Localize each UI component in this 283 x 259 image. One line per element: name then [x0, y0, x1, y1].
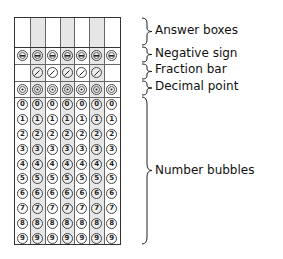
digit-bubble-0[interactable]: 0: [47, 99, 58, 110]
digit-bubble-7[interactable]: 7: [17, 203, 28, 214]
digit-bubble-4[interactable]: 4: [76, 159, 87, 170]
label-number-bubbles: Number bubbles: [155, 163, 254, 177]
digit-bubble-1[interactable]: 1: [32, 114, 43, 125]
row-divider: [15, 97, 120, 98]
brace-number-bubbles: [141, 96, 153, 245]
negative-sign-bubble[interactable]: [76, 50, 87, 61]
digit-bubble-5[interactable]: 5: [17, 173, 28, 184]
digit-bubble-3[interactable]: 3: [32, 144, 43, 155]
negative-sign-bubble[interactable]: [32, 50, 43, 61]
digit-bubble-6[interactable]: 6: [32, 188, 43, 199]
digit-bubble-4[interactable]: 4: [91, 159, 102, 170]
digit-bubble-4[interactable]: 4: [32, 159, 43, 170]
digit-bubble-2[interactable]: 2: [17, 129, 28, 140]
digit-bubble-2[interactable]: 2: [47, 129, 58, 140]
digit-bubble-7[interactable]: 7: [32, 203, 43, 214]
brace-answer-boxes: [141, 17, 153, 46]
digit-bubble-1[interactable]: 1: [62, 114, 73, 125]
digit-bubble-8[interactable]: 8: [32, 218, 43, 229]
digit-bubble-8[interactable]: 8: [91, 218, 102, 229]
digit-bubble-6[interactable]: 6: [17, 188, 28, 199]
column-divider: [30, 18, 31, 244]
label-fraction-bar: Fraction bar: [155, 62, 227, 76]
digit-bubble-8[interactable]: 8: [47, 218, 58, 229]
row-divider: [15, 64, 120, 65]
negative-sign-bubble[interactable]: [47, 50, 58, 61]
digit-bubble-4[interactable]: 4: [62, 159, 73, 170]
digit-bubble-9[interactable]: 9: [62, 233, 73, 244]
row-divider: [15, 47, 120, 48]
digit-bubble-5[interactable]: 5: [62, 173, 73, 184]
column-divider: [45, 18, 46, 244]
digit-bubble-4[interactable]: 4: [106, 159, 117, 170]
digit-bubble-0[interactable]: 0: [62, 99, 73, 110]
digit-bubble-8[interactable]: 8: [62, 218, 73, 229]
digit-bubble-3[interactable]: 3: [47, 144, 58, 155]
label-decimal-point: Decimal point: [155, 79, 238, 93]
digit-bubble-1[interactable]: 1: [47, 114, 58, 125]
digit-bubble-4[interactable]: 4: [47, 159, 58, 170]
decimal-point-bubble[interactable]: [62, 84, 73, 95]
digit-bubble-6[interactable]: 6: [62, 188, 73, 199]
digit-bubble-9[interactable]: 9: [106, 233, 117, 244]
digit-bubble-3[interactable]: 3: [106, 144, 117, 155]
digit-bubble-6[interactable]: 6: [106, 188, 117, 199]
negative-sign-bubble[interactable]: [17, 50, 28, 61]
fraction-bar-bubble[interactable]: [91, 67, 102, 78]
digit-bubble-6[interactable]: 6: [47, 188, 58, 199]
negative-sign-bubble[interactable]: [62, 50, 73, 61]
decimal-point-bubble[interactable]: [32, 84, 43, 95]
digit-bubble-7[interactable]: 7: [47, 203, 58, 214]
digit-bubble-7[interactable]: 7: [76, 203, 87, 214]
decimal-point-bubble[interactable]: [106, 84, 117, 95]
digit-bubble-9[interactable]: 9: [47, 233, 58, 244]
digit-bubble-1[interactable]: 1: [17, 114, 28, 125]
column-divider: [89, 18, 90, 244]
digit-bubble-7[interactable]: 7: [62, 203, 73, 214]
digit-bubble-0[interactable]: 0: [106, 99, 117, 110]
digit-bubble-5[interactable]: 5: [76, 173, 87, 184]
fraction-bar-bubble[interactable]: [76, 67, 87, 78]
column-divider: [104, 18, 105, 244]
digit-bubble-5[interactable]: 5: [106, 173, 117, 184]
digit-bubble-4[interactable]: 4: [17, 159, 28, 170]
fraction-bar-bubble[interactable]: [32, 67, 43, 78]
label-negative-sign: Negative sign: [155, 46, 237, 60]
digit-bubble-9[interactable]: 9: [32, 233, 43, 244]
decimal-point-bubble[interactable]: [91, 84, 102, 95]
digit-bubble-2[interactable]: 2: [106, 129, 117, 140]
digit-bubble-3[interactable]: 3: [17, 144, 28, 155]
label-answer-boxes: Answer boxes: [155, 23, 238, 37]
fraction-bar-bubble[interactable]: [47, 67, 58, 78]
decimal-point-bubble[interactable]: [17, 84, 28, 95]
digit-bubble-2[interactable]: 2: [32, 129, 43, 140]
digit-bubble-5[interactable]: 5: [47, 173, 58, 184]
brace-negative-sign: [141, 46, 153, 63]
digit-bubble-1[interactable]: 1: [76, 114, 87, 125]
digit-bubble-3[interactable]: 3: [76, 144, 87, 155]
brace-fraction-bar: [141, 63, 153, 80]
digit-bubble-9[interactable]: 9: [17, 233, 28, 244]
digit-bubble-3[interactable]: 3: [62, 144, 73, 155]
digit-bubble-7[interactable]: 7: [106, 203, 117, 214]
digit-bubble-9[interactable]: 9: [76, 233, 87, 244]
decimal-point-bubble[interactable]: [76, 84, 87, 95]
digit-bubble-8[interactable]: 8: [17, 218, 28, 229]
digit-bubble-3[interactable]: 3: [91, 144, 102, 155]
digit-bubble-2[interactable]: 2: [62, 129, 73, 140]
negative-sign-bubble[interactable]: [106, 50, 117, 61]
digit-bubble-0[interactable]: 0: [17, 99, 28, 110]
digit-bubble-9[interactable]: 9: [91, 233, 102, 244]
digit-bubble-0[interactable]: 0: [76, 99, 87, 110]
decimal-point-bubble[interactable]: [47, 84, 58, 95]
digit-bubble-8[interactable]: 8: [76, 218, 87, 229]
digit-bubble-6[interactable]: 6: [76, 188, 87, 199]
row-divider: [15, 81, 120, 82]
column-divider: [74, 18, 75, 244]
answer-grid: 0000000111111122222223333333444444455555…: [14, 17, 121, 245]
digit-bubble-1[interactable]: 1: [106, 114, 117, 125]
column-divider: [60, 18, 61, 244]
digit-bubble-8[interactable]: 8: [106, 218, 117, 229]
digit-bubble-2[interactable]: 2: [76, 129, 87, 140]
fraction-bar-bubble[interactable]: [62, 67, 73, 78]
